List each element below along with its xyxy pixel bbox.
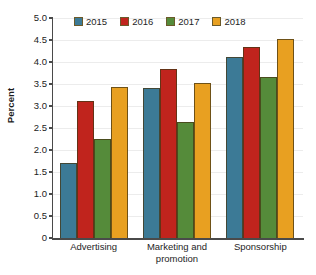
y-axis-tick-label: 0.5: [34, 211, 47, 221]
y-axis-tick-label: 4.0: [34, 57, 47, 67]
bar[interactable]: [77, 101, 94, 238]
legend-swatch-icon: [74, 17, 83, 26]
x-axis-category-label: Advertising: [54, 241, 134, 264]
bar[interactable]: [277, 39, 294, 238]
y-axis-tick-label: 5.0: [34, 13, 47, 23]
x-axis-labels: AdvertisingMarketing and promotionSponso…: [52, 241, 302, 264]
y-axis-tick-label: 3.0: [34, 101, 47, 111]
x-axis-baseline: [52, 238, 304, 240]
y-axis-tick-label: 1.0: [34, 189, 47, 199]
bar[interactable]: [143, 88, 160, 238]
bar[interactable]: [94, 139, 111, 238]
bar-chart-figure: Percent 5.04.54.03.53.02.52.01.51.00.50 …: [0, 0, 316, 275]
bar[interactable]: [60, 163, 77, 238]
legend-item[interactable]: 2015: [74, 17, 107, 27]
bar[interactable]: [243, 47, 260, 238]
chart-legend: 2015201620172018: [74, 17, 246, 27]
x-axis-category-label: Marketing and promotion: [137, 241, 217, 264]
bar-group: [143, 18, 211, 238]
legend-item-label: 2016: [132, 17, 153, 27]
y-axis-title: Percent: [5, 71, 16, 141]
bar-group: [226, 18, 294, 238]
legend-item-label: 2017: [178, 17, 199, 27]
bar-group: [60, 18, 128, 238]
bar[interactable]: [177, 122, 194, 238]
y-axis-tick-label: 3.5: [34, 79, 47, 89]
bar[interactable]: [260, 77, 277, 238]
y-axis-tick-label: 2.5: [34, 123, 47, 133]
legend-item-label: 2015: [86, 17, 107, 27]
legend-swatch-icon: [120, 17, 129, 26]
bar[interactable]: [160, 69, 177, 238]
legend-item[interactable]: 2017: [166, 17, 199, 27]
bar[interactable]: [226, 57, 243, 238]
bar-groups: [52, 18, 302, 238]
legend-item[interactable]: 2018: [212, 17, 245, 27]
y-axis-tick-label: 0: [42, 233, 47, 243]
legend-item[interactable]: 2016: [120, 17, 153, 27]
legend-swatch-icon: [212, 17, 221, 26]
x-axis-category-label: Sponsorship: [220, 241, 300, 264]
bar[interactable]: [111, 87, 128, 238]
y-axis-tick-label: 1.5: [34, 167, 47, 177]
y-axis-tick-label: 4.5: [34, 35, 47, 45]
legend-swatch-icon: [166, 17, 175, 26]
legend-item-label: 2018: [224, 17, 245, 27]
y-axis-tick-label: 2.0: [34, 145, 47, 155]
bar[interactable]: [194, 83, 211, 238]
